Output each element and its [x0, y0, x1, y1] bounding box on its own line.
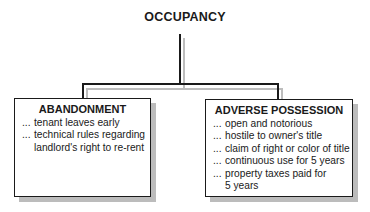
list-item: ...tenant leaves early	[22, 117, 150, 129]
adverse-possession-box: ADVERSE POSSESSION ...open and notorious…	[205, 99, 353, 197]
connector-vertical	[179, 34, 181, 85]
list-item: ...claim of right or color of title	[213, 143, 352, 155]
root-node-title: OCCUPANCY	[0, 10, 370, 24]
adverse-possession-title: ADVERSE POSSESSION	[206, 104, 352, 116]
connector-horizontal	[82, 83, 279, 85]
adverse-possession-list: ...open and notorious ...hostile to owne…	[206, 118, 352, 192]
abandonment-title: ABANDONMENT	[15, 103, 150, 115]
connector-right-drop	[277, 83, 279, 99]
abandonment-list: ...tenant leaves early ...technical rule…	[15, 117, 150, 154]
abandonment-box: ABANDONMENT ...tenant leaves early ...te…	[14, 98, 151, 197]
list-item: ...open and notorious	[213, 118, 352, 130]
list-item: ...property taxes paid for 5 years	[213, 168, 330, 193]
connector-left-drop	[82, 83, 84, 99]
connector-shadow-vertical	[183, 38, 185, 89]
list-item: ...continuous use for 5 years	[213, 155, 352, 167]
connector-shadow-horizontal	[86, 88, 283, 90]
list-item: ...hostile to owner's title	[213, 130, 352, 142]
list-item: ...technical rules regarding landlord's …	[22, 129, 150, 154]
